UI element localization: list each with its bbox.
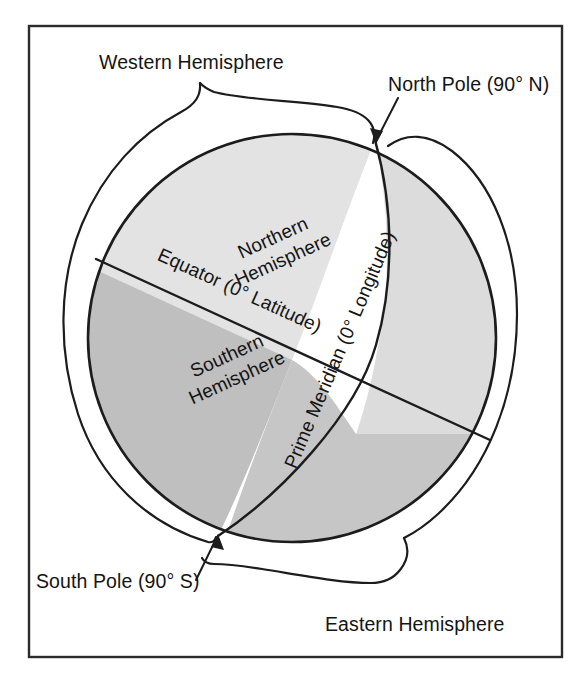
western-hemisphere-label: Western Hemisphere (99, 51, 284, 73)
eastern-hemisphere-label: Eastern Hemisphere (325, 613, 505, 635)
globe-hemispheres-figure: Western Hemisphere North Pole (90° N) So… (0, 0, 587, 678)
north-pole-label: North Pole (90° N) (388, 73, 549, 95)
south-pole-label: South Pole (90° S) (36, 570, 200, 592)
